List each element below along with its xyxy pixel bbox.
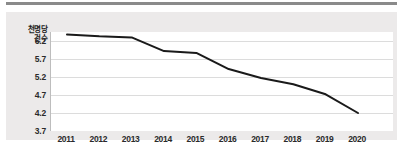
chart-container: 천명당 건수 6.25.75.24.74.23.7 20112012201320… bbox=[0, 0, 403, 149]
series-polyline bbox=[67, 35, 358, 113]
x-axis-tick-label: 2019 bbox=[316, 134, 334, 144]
x-axis-tick-label: 2015 bbox=[186, 134, 204, 144]
x-axis-tick-label: 2017 bbox=[251, 134, 269, 144]
y-axis-tick-label: 5.7 bbox=[12, 54, 46, 64]
x-axis-tick-label: 2012 bbox=[89, 134, 107, 144]
x-axis-tick-label: 2016 bbox=[219, 134, 237, 144]
y-axis-tick-label: 3.7 bbox=[12, 126, 46, 136]
chart-card: 천명당 건수 6.25.75.24.74.23.7 20112012201320… bbox=[6, 12, 397, 140]
x-axis-tick-label: 2014 bbox=[154, 134, 172, 144]
x-axis-tick-label: 2013 bbox=[122, 134, 140, 144]
y-axis-tick-label: 6.2 bbox=[12, 36, 46, 46]
x-axis-tick-label: 2020 bbox=[348, 134, 366, 144]
y-axis-tick-label: 5.2 bbox=[12, 72, 46, 82]
line-series bbox=[51, 32, 393, 131]
y-axis-tick-label: 4.7 bbox=[12, 90, 46, 100]
x-axis-tick-label: 2011 bbox=[57, 134, 74, 144]
top-divider-rule bbox=[6, 2, 397, 5]
plot-inner bbox=[51, 32, 393, 131]
y-axis-tick-label: 4.2 bbox=[12, 108, 46, 118]
x-axis-tick-label: 2018 bbox=[283, 134, 301, 144]
plot-area bbox=[50, 32, 393, 131]
